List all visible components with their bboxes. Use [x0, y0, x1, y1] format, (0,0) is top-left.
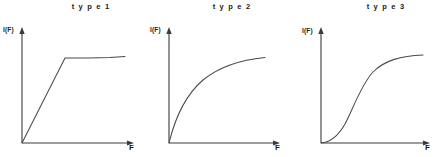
- curve-type-1: [22, 57, 125, 144]
- x-axis-arrowhead: [273, 140, 280, 145]
- curve-type-3: [321, 55, 423, 143]
- y-axis-arrowhead: [19, 27, 24, 34]
- functional-response-figure: t y p e 1 I(F) F t y p e 2 I(F) F: [0, 0, 437, 157]
- plot-area-type-2: [145, 0, 291, 157]
- y-axis-arrowhead: [318, 27, 323, 34]
- x-axis-arrowhead: [423, 140, 430, 145]
- curve-type-2: [169, 58, 265, 144]
- x-axis-arrowhead: [127, 140, 134, 145]
- panel-type-1: t y p e 1 I(F) F: [0, 0, 146, 157]
- panel-type-3: t y p e 3 I(F) F: [291, 0, 437, 157]
- plot-area-type-1: [0, 0, 146, 157]
- y-axis-arrowhead: [166, 27, 171, 34]
- panel-type-2: t y p e 2 I(F) F: [145, 0, 291, 157]
- plot-area-type-3: [291, 0, 437, 157]
